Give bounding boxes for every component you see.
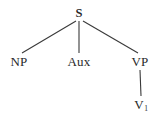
tree-node-v1-subscript: 1 [144, 104, 148, 113]
syntax-tree-diagram: S NP Aux VP V1 [0, 0, 160, 116]
edge-s-vp [83, 21, 138, 53]
tree-node-v1: V1 [134, 98, 148, 111]
tree-node-v1-base: V [134, 97, 144, 112]
tree-node-vp: VP [131, 55, 148, 68]
edge-s-np [22, 21, 76, 53]
tree-node-s: S [75, 7, 82, 20]
edge-vp-v1 [140, 70, 141, 96]
tree-node-aux: Aux [68, 55, 91, 68]
tree-node-np: NP [10, 55, 27, 68]
